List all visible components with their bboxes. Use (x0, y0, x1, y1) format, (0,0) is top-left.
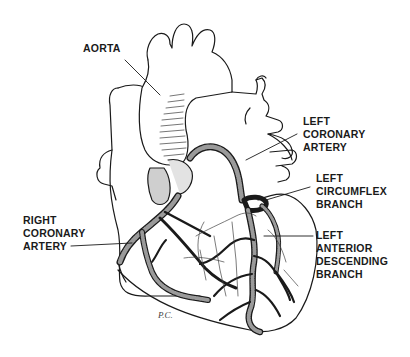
heart-diagram: AORTA LEFT CORONARY ARTERY LEFT CIRCUMFL… (0, 0, 410, 357)
superior-vena-cava (97, 88, 118, 200)
label-line: ARTERY (23, 240, 85, 253)
left-coronary-artery-vessel (190, 147, 242, 200)
label-line: ARTERY (303, 141, 365, 154)
pulmonary-trunk (232, 78, 292, 160)
label-line: LEFT (316, 229, 388, 242)
label-line: CIRCUMFLEX (316, 185, 387, 198)
label-line: BRANCH (316, 198, 387, 211)
label-line: ANTERIOR (316, 242, 388, 255)
label-line: CORONARY (303, 128, 365, 141)
label-line: DESCENDING (316, 255, 388, 268)
label-line: CORONARY (23, 227, 85, 240)
label-line: RIGHT (23, 214, 85, 227)
label-line: LEFT (303, 115, 365, 128)
label-right-coronary-artery: RIGHT CORONARY ARTERY (23, 214, 85, 253)
artist-signature: P.C. (158, 310, 173, 320)
label-aorta: AORTA (83, 42, 121, 55)
label-line: BRANCH (316, 268, 388, 281)
label-line: LEFT (316, 172, 387, 185)
label-left-anterior-descending-branch: LEFT ANTERIOR DESCENDING BRANCH (316, 229, 388, 281)
left-circumflex-leader (266, 187, 310, 200)
label-line: AORTA (83, 42, 121, 55)
label-left-circumflex-branch: LEFT CIRCUMFLEX BRANCH (316, 172, 387, 211)
right-auricle (148, 168, 170, 205)
label-left-coronary-artery: LEFT CORONARY ARTERY (303, 115, 365, 154)
